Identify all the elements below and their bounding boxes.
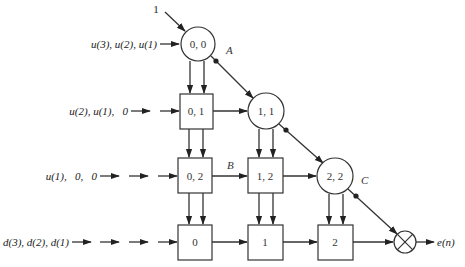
delay-dot-c (353, 193, 358, 198)
row-input-label-1: u(2), u(1), 0 (69, 105, 128, 118)
edge-label-a: A (225, 44, 233, 56)
cell-label-final-2: 2 (332, 236, 338, 248)
multiplier-icon (394, 231, 416, 253)
systolic-array-diagram: 0, 0 1, 1 2, 2 0, 1 0, 2 1, 2 0 1 2 1 u(… (0, 0, 465, 267)
delay-dot-a (213, 58, 218, 63)
row-input-label-0: u(3), u(2), u(1) (91, 38, 157, 51)
delay-dot-b (283, 127, 288, 132)
cell-label-0-1: 0, 1 (188, 105, 205, 117)
row-input-label-3: d(3), d(2), d(1) (3, 236, 69, 249)
cell-label-final-0: 0 (192, 236, 198, 248)
row-input-label-2: u(1), 0, 0 (46, 170, 98, 183)
edge-label-c: C (361, 174, 369, 186)
cell-label-final-1: 1 (262, 236, 268, 248)
output-label: e(n) (437, 236, 455, 249)
cell-label-1-2: 1, 2 (257, 170, 274, 182)
cell-label-0-2: 0, 2 (187, 170, 204, 182)
cell-label-0-0: 0, 0 (190, 38, 207, 50)
edge-label-b: B (227, 159, 234, 171)
cell-label-1-1: 1, 1 (258, 105, 275, 117)
cell-label-2-2: 2, 2 (327, 170, 344, 182)
top-input-label: 1 (153, 3, 159, 15)
